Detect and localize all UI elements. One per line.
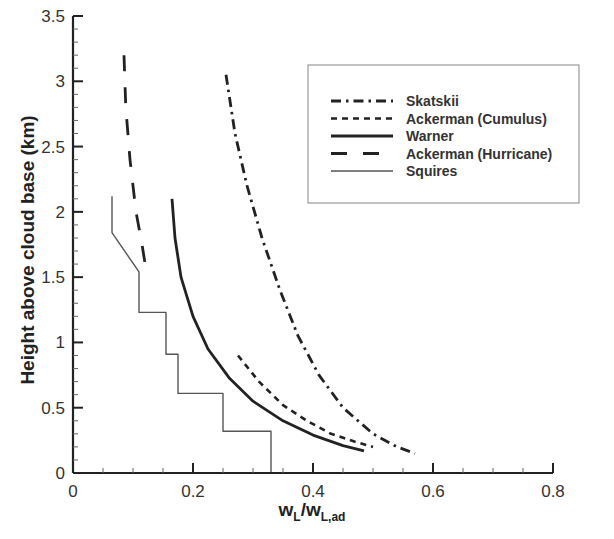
- x-title-w1: w: [278, 499, 294, 520]
- y-tick-label: 1.5: [41, 268, 65, 287]
- legend-label: Warner: [406, 128, 454, 144]
- y-tick-label: 2: [56, 203, 65, 222]
- x-axis-title: wL/wL,ad: [278, 499, 346, 524]
- y-axis-title: Height above cloud base (km): [17, 115, 38, 384]
- x-tick-label: 0.6: [421, 482, 445, 501]
- y-tick-label: 1: [56, 333, 65, 352]
- y-tick-label: 3.5: [41, 7, 65, 26]
- legend-label: Skatskii: [406, 93, 459, 109]
- x-tick-label: 0.2: [181, 482, 205, 501]
- x-tick-label: 0.8: [541, 482, 565, 501]
- chart: 00.20.40.60.800.511.522.533.5 SkatskiiAc…: [0, 0, 614, 539]
- y-tick-label: 0.5: [41, 399, 65, 418]
- legend-label: Ackerman (Hurricane): [406, 146, 552, 162]
- legend-label: Squires: [406, 163, 458, 179]
- series-ackerman-hurricane: [124, 55, 146, 270]
- x-title-sub2: L,ad: [321, 510, 346, 524]
- series-ackerman-cumulus: [238, 356, 373, 447]
- y-tick-label: 2.5: [41, 138, 65, 157]
- x-tick-label: 0: [68, 482, 77, 501]
- series-squires: [112, 196, 271, 473]
- legend-label: Ackerman (Cumulus): [406, 111, 547, 127]
- x-title-sub1: L: [293, 510, 300, 524]
- series-warner: [172, 199, 364, 451]
- legend: SkatskiiAckerman (Cumulus)WarnerAckerman…: [308, 65, 579, 203]
- y-tick-label: 3: [56, 72, 65, 91]
- x-title-w2: /w: [301, 499, 321, 520]
- y-tick-label: 0: [56, 464, 65, 483]
